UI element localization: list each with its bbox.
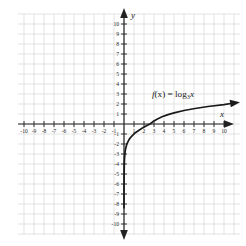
x-tick-label: -4 <box>82 128 87 134</box>
y-tick-label: -4 <box>114 161 119 167</box>
x-tick-label: 3 <box>153 128 156 134</box>
x-tick-label: -6 <box>62 128 67 134</box>
x-tick-label: -7 <box>52 128 57 134</box>
x-tick-label: 8 <box>203 128 206 134</box>
y-tick-label: -6 <box>114 181 119 187</box>
y-tick-label: 1 <box>116 111 119 117</box>
x-tick-label: 2 <box>143 128 146 134</box>
y-tick-label: 7 <box>116 51 119 57</box>
y-tick-label: 10 <box>113 21 119 27</box>
x-tick-label: 10 <box>221 128 227 134</box>
y-tick-label: -8 <box>114 201 119 207</box>
x-tick-label: 9 <box>213 128 216 134</box>
x-tick-label: -2 <box>102 128 107 134</box>
x-tick-label: -9 <box>32 128 37 134</box>
y-tick-label: 8 <box>116 41 119 47</box>
y-tick-label: -10 <box>112 221 120 227</box>
x-tick-label: 4 <box>163 128 166 134</box>
x-tick-label: -5 <box>72 128 77 134</box>
x-tick-label: 6 <box>183 128 186 134</box>
y-tick-label: -1 <box>114 131 119 137</box>
y-tick-label: 3 <box>116 91 119 97</box>
y-tick-label: 2 <box>116 101 119 107</box>
y-tick-label: -2 <box>114 141 119 147</box>
graph-canvas: -10 -9 -8 -7 -6 -5 -4 -3 -2 -1 1 2 3 4 5… <box>0 0 246 246</box>
y-tick-label: -3 <box>114 151 119 157</box>
x-tick-label: -3 <box>92 128 97 134</box>
y-tick-label: 9 <box>116 31 119 37</box>
x-tick-label: -10 <box>20 128 28 134</box>
y-tick-label: 4 <box>116 81 119 87</box>
y-tick-label: -7 <box>114 191 119 197</box>
y-tick-label: -9 <box>114 211 119 217</box>
x-tick-label: 5 <box>173 128 176 134</box>
y-tick-label: -5 <box>114 171 119 177</box>
y-tick-label: 6 <box>116 61 119 67</box>
x-axis-label: x <box>219 109 224 119</box>
x-tick-label: -8 <box>42 128 47 134</box>
figure-background <box>0 0 246 246</box>
x-tick-label: 7 <box>193 128 196 134</box>
log-function-graph-figure: -10 -9 -8 -7 -6 -5 -4 -3 -2 -1 1 2 3 4 5… <box>0 0 246 246</box>
function-equals-log: = log <box>165 89 187 99</box>
y-axis-label: y <box>130 10 135 20</box>
function-argument: (x) <box>155 89 166 99</box>
y-tick-label: 5 <box>116 71 119 77</box>
